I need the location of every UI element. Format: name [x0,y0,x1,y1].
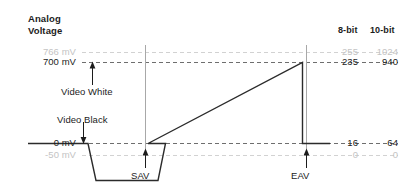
code-10bit-64: 64 [366,137,398,148]
page-title-line-1: Analog [28,13,62,25]
page-title-line-2: Voltage [28,25,62,37]
code-8bit-235: 235 [332,56,358,67]
axis-label-neg50mv: -50 mV [14,149,76,160]
page-title: Analog Voltage [28,13,62,36]
axis-label-0mv: 0 mV [14,137,76,148]
code-10bit-0: 0 [366,149,398,160]
column-header-10bit: 10-bit [370,25,395,35]
column-header-8bit: 8-bit [338,25,358,35]
axis-label-700mv: 700 mV [14,56,76,67]
sav-arrow-head-icon [143,149,149,156]
annotation-video-white: Video White [61,86,113,97]
analog-video-waveform-diagram: Analog Voltage 8-bit 10-bit 766 mV 700 m… [0,0,412,196]
code-8bit-0: 0 [332,149,358,160]
code-10bit-940: 940 [366,56,398,67]
eav-arrow-head-icon [304,149,310,156]
annotation-sav: SAV [131,170,149,181]
code-8bit-16: 16 [332,137,358,148]
annotation-video-black: Video Black [57,114,108,125]
annotation-eav: EAV [291,170,309,181]
